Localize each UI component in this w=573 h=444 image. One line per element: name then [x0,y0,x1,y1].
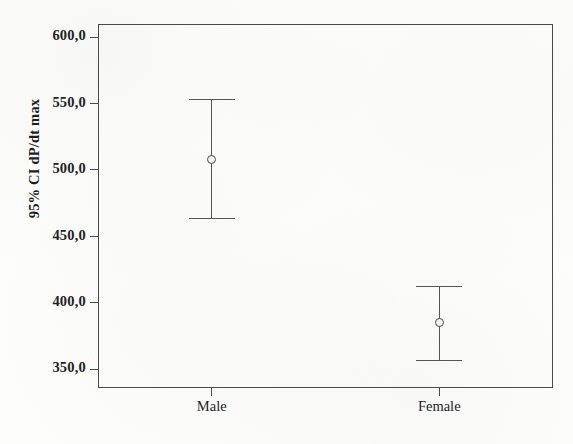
y-axis-tick-label: 550,0 [16,94,86,111]
error-bar-chart-figure: 95% CI dP/dt max 600,0550,0500,0450,0400… [0,0,573,444]
y-axis-tick-label: 500,0 [16,160,86,177]
error-bar-cap-upper [416,286,462,287]
x-axis-tick [439,388,440,396]
y-axis-tick [90,369,98,370]
y-axis-tick [90,236,98,237]
y-axis-tick [90,103,98,104]
y-axis-tick-label: 450,0 [16,227,86,244]
error-bar-cap-lower [189,218,235,219]
x-axis-tick-label: Female [369,398,509,415]
y-axis-tick-label: 600,0 [16,27,86,44]
y-axis-tick-label: 400,0 [16,293,86,310]
error-bar-cap-upper [189,99,235,100]
x-axis-tick-label: Male [142,398,282,415]
y-axis-tick-label: 350,0 [16,359,86,376]
x-axis-tick [211,388,212,396]
error-bar-cap-lower [416,360,462,361]
y-axis-tick [90,302,98,303]
y-axis-tick [90,169,98,170]
plot-frame [98,24,553,388]
y-axis-tick [90,37,98,38]
